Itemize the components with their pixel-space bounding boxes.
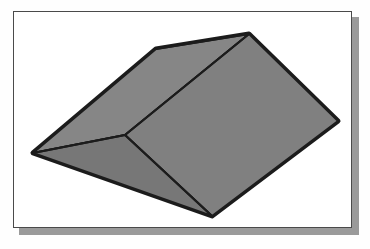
figure-page [0,0,370,249]
caption-text-remnant [0,0,370,2]
figure-frame [13,11,352,228]
solid-illustration [14,12,351,227]
